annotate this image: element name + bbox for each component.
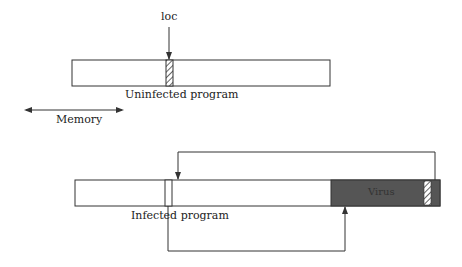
loc-hatched-block — [166, 60, 173, 86]
uninfected-program-label: Uninfected program — [125, 88, 238, 101]
virus-infection-diagram — [0, 0, 462, 267]
jump-instruction-block — [165, 180, 172, 206]
return-arrow-icon — [178, 152, 435, 180]
uninfected-program-bar — [72, 60, 330, 86]
loc-label: loc — [161, 10, 177, 23]
virus-label: Virus — [368, 186, 395, 197]
infected-program-label: Infected program — [131, 209, 229, 222]
virus-hatched-block — [424, 181, 431, 205]
memory-label: Memory — [56, 113, 102, 126]
